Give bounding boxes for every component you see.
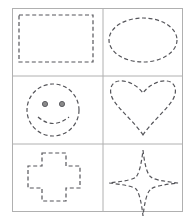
worksheet-canvas — [0, 0, 195, 218]
smiley-right-eye — [59, 101, 64, 106]
shape-tracing-worksheet — [0, 0, 195, 218]
smiley-left-eye — [42, 101, 47, 106]
